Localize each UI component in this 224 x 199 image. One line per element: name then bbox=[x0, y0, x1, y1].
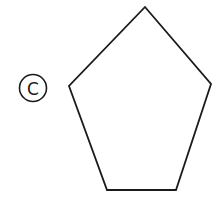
label-letter: C bbox=[27, 79, 39, 99]
option-label-c: C bbox=[20, 75, 47, 102]
pentagon-shape bbox=[69, 7, 211, 190]
diagram-canvas: C bbox=[0, 0, 224, 199]
